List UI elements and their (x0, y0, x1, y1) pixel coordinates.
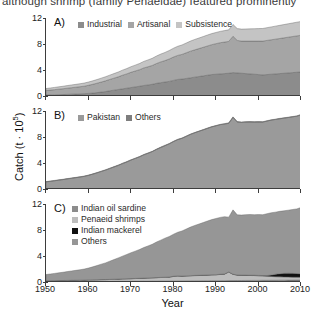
y-tick-label-12: 12 (20, 14, 42, 23)
x-tick-label-1970: 1970 (120, 284, 140, 294)
x-tick-mark (300, 96, 301, 100)
legend-item-subsistence: Subsistence (176, 19, 232, 30)
x-tick-mark (300, 189, 301, 193)
legend-swatch-icon (72, 217, 78, 223)
legend-label: Subsistence (185, 19, 232, 29)
panel-a-legend: IndustrialArtisanalSubsistence (78, 19, 238, 30)
legend-swatch-icon (128, 22, 134, 28)
panel-c: 0 4 8 12 C) Indian oil sardine Penaeid s… (0, 204, 323, 296)
x-tick-label-2000: 2000 (247, 284, 267, 294)
x-tick-mark (258, 189, 259, 193)
x-tick-label-2010: 2010 (290, 284, 310, 294)
y-tick-label-8: 8 (20, 226, 42, 235)
legend-item-indian-oil-sardine: Indian oil sardine (72, 203, 146, 214)
legend-swatch-icon (78, 22, 84, 28)
x-tick-mark (45, 189, 46, 193)
x-tick-mark (215, 189, 216, 193)
legend-swatch-icon (72, 228, 78, 234)
legend-item-artisanal: Artisanal (128, 19, 170, 30)
panel-c-legend: Indian oil sardine Penaeid shrimps India… (72, 203, 146, 247)
y-axis-title-exponent: 5 (11, 116, 20, 120)
legend-label: Penaeid shrimps (81, 214, 145, 224)
x-tick-label-1980: 1980 (162, 284, 182, 294)
legend-label: Artisanal (137, 19, 170, 29)
y-tick-label-8: 8 (20, 40, 42, 49)
legend-item-penaeid-shrimps: Penaeid shrimps (72, 214, 146, 225)
legend-swatch-icon (78, 115, 84, 121)
panel-b-label: B) (54, 109, 65, 121)
panel-a-label: A) (54, 16, 65, 28)
x-axis-title: Year (45, 297, 300, 309)
legend-label: Indian oil sardine (81, 203, 146, 213)
x-tick-mark (215, 96, 216, 100)
legend-label: Industrial (87, 19, 122, 29)
x-tick-label-1990: 1990 (205, 284, 225, 294)
legend-item-industrial: Industrial (78, 19, 122, 30)
x-tick-mark (88, 96, 89, 100)
legend-swatch-icon (126, 115, 132, 121)
legend-label: Others (81, 236, 107, 246)
panel-c-label: C) (54, 202, 66, 214)
y-axis-title-paren: ) (13, 113, 25, 117)
x-tick-mark (88, 189, 89, 193)
legend-label: Indian mackerel (81, 225, 142, 235)
legend-item-others: Others (72, 236, 146, 247)
x-tick-mark (45, 96, 46, 100)
y-tick-label-4: 4 (20, 66, 42, 75)
panel-a-y-tick-labels: 0 4 8 12 (20, 18, 42, 96)
legend-item-pakistan: Pakistan (78, 112, 120, 123)
x-tick-label-1950: 1950 (35, 284, 55, 294)
x-tick-label-1960: 1960 (77, 284, 97, 294)
y-tick-label-12: 12 (20, 200, 42, 209)
legend-label: Pakistan (87, 112, 120, 122)
legend-item-others: Others (126, 112, 161, 123)
area-series-pakistan (46, 115, 300, 189)
figure-catch-by-sector: 0 4 8 12 A) IndustrialArtisanalSubsisten… (0, 12, 323, 334)
panel-b-legend: PakistanOthers (78, 112, 167, 123)
y-tick-label-4: 4 (20, 252, 42, 261)
y-axis-title: Catch (t · 105) (11, 97, 25, 197)
legend-label: Others (135, 112, 161, 122)
panel-a: 0 4 8 12 A) IndustrialArtisanalSubsisten… (0, 18, 323, 110)
panel-b: 0 4 8 12 B) PakistanOthers (0, 111, 323, 203)
x-tick-mark (258, 96, 259, 100)
x-axis-tick-labels: 1950 1960 1970 1980 1990 2000 2010 (45, 284, 305, 296)
legend-swatch-icon (72, 239, 78, 245)
y-axis-title-text: Catch (t · 10 (13, 120, 25, 181)
x-tick-mark (173, 189, 174, 193)
legend-item-indian-mackerel: Indian mackerel (72, 225, 146, 236)
panel-c-y-tick-labels: 0 4 8 12 (20, 204, 42, 282)
x-tick-mark (130, 96, 131, 100)
x-tick-mark (173, 96, 174, 100)
figure-caption-fragment: although shrimp (family Penaeidae) featu… (0, 0, 323, 9)
x-tick-mark (130, 189, 131, 193)
legend-swatch-icon (72, 206, 78, 212)
legend-swatch-icon (176, 22, 182, 28)
